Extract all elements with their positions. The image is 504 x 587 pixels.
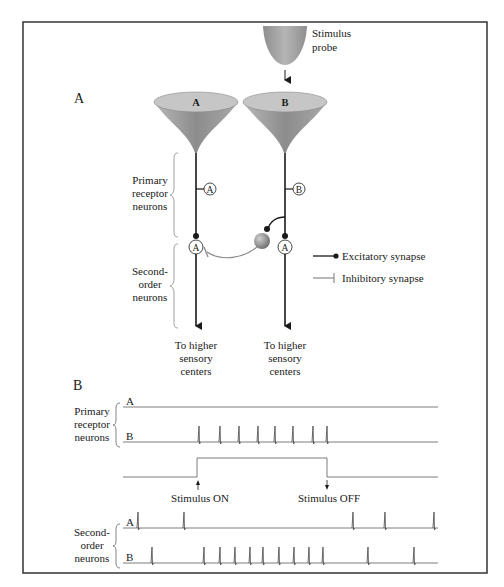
panel-a: A Stimulus probe A B A A xyxy=(74,26,426,377)
action-potential-spike xyxy=(278,547,281,565)
legend: Excitatory synapse Inhibitory synapse xyxy=(313,250,426,284)
primary-trace-b-label: B xyxy=(126,430,133,442)
svg-text:order: order xyxy=(80,539,104,551)
receptor-cone-a: A xyxy=(154,92,238,153)
action-potential-spike xyxy=(326,426,329,444)
action-potential-spike xyxy=(352,512,355,530)
second-order-trace-b-label: B xyxy=(126,551,133,563)
excitatory-synapse-dot-interneuron xyxy=(264,226,270,232)
action-potential-spike xyxy=(234,547,237,565)
neuron-a-pathway: A A xyxy=(189,153,216,326)
svg-text:Second-: Second- xyxy=(132,265,168,277)
neuron-b-pathway: B A xyxy=(264,153,305,326)
action-potential-spike xyxy=(274,426,277,444)
action-potential-spike xyxy=(312,426,315,444)
action-potential-spike xyxy=(292,426,295,444)
excitatory-legend-label: Excitatory synapse xyxy=(342,250,426,262)
primary-brace xyxy=(170,153,178,237)
svg-text:Second-: Second- xyxy=(74,526,110,538)
action-potential-spike xyxy=(203,547,206,565)
svg-text:sensory: sensory xyxy=(179,352,213,364)
interneuron-cell-body xyxy=(254,233,270,249)
primary-trace-group-label: Primary receptor neurons xyxy=(74,405,110,443)
svg-text:receptor: receptor xyxy=(74,418,110,430)
svg-text:receptor: receptor xyxy=(132,187,168,199)
action-potential-spike xyxy=(384,512,387,530)
cone-a-label: A xyxy=(192,97,200,108)
svg-text:A: A xyxy=(193,243,200,253)
excitatory-synapse-dot-a xyxy=(193,233,199,239)
second-order-trace-group-label: Second- order neurons xyxy=(74,526,110,564)
second-order-group-label: Second- order neurons xyxy=(132,265,168,303)
action-potential-spike xyxy=(238,426,241,444)
inhibitory-pathway xyxy=(207,247,257,258)
stimulus-trace xyxy=(123,458,438,477)
primary-trace-b-spikes xyxy=(198,426,329,444)
second-order-brace xyxy=(170,244,178,328)
panel-b: B Primary receptor neurons A B Stimulus … xyxy=(73,378,438,568)
svg-text:neurons: neurons xyxy=(75,431,110,443)
action-potential-spike xyxy=(262,547,265,565)
primary-trace-a-label: A xyxy=(126,395,134,407)
primary-trace-brace xyxy=(113,403,120,447)
panel-b-label: B xyxy=(73,378,82,393)
second-order-trace-b-spikes xyxy=(151,547,416,565)
svg-text:B: B xyxy=(296,185,302,195)
primary-group-label: Primary receptor neurons xyxy=(132,174,168,212)
svg-text:A: A xyxy=(282,243,289,253)
action-potential-spike xyxy=(151,547,154,565)
stimulus-probe-label-line1: Stimulus xyxy=(312,27,351,39)
svg-text:Primary: Primary xyxy=(132,174,168,186)
svg-text:A: A xyxy=(207,185,214,195)
output-label-b: To higher sensory centers xyxy=(264,339,307,377)
probe-shape xyxy=(263,26,307,65)
output-label-a: To higher sensory centers xyxy=(175,339,218,377)
stimulus-probe-label-line2: probe xyxy=(312,41,337,53)
second-order-trace-a-label: A xyxy=(126,516,134,528)
svg-text:sensory: sensory xyxy=(268,352,302,364)
receptor-cone-b: B xyxy=(243,92,327,153)
panel-a-label: A xyxy=(74,91,85,106)
action-potential-spike xyxy=(433,512,436,530)
svg-text:order: order xyxy=(138,278,162,290)
action-potential-spike xyxy=(137,512,140,530)
action-potential-spike xyxy=(198,426,201,444)
svg-text:To higher: To higher xyxy=(175,339,218,351)
excitatory-legend-dot xyxy=(333,253,338,258)
svg-text:Primary: Primary xyxy=(74,405,110,417)
action-potential-spike xyxy=(367,547,370,565)
lateral-inhibition-figure: A Stimulus probe A B A A xyxy=(0,0,504,587)
action-potential-spike xyxy=(413,547,416,565)
svg-text:neurons: neurons xyxy=(133,291,168,303)
stimulus-on-label: Stimulus ON xyxy=(171,492,229,504)
svg-text:centers: centers xyxy=(180,365,211,377)
action-potential-spike xyxy=(219,547,222,565)
action-potential-spike xyxy=(219,426,222,444)
svg-text:neurons: neurons xyxy=(75,552,110,564)
inhibitory-interneuron xyxy=(204,233,270,258)
svg-text:neurons: neurons xyxy=(133,200,168,212)
action-potential-spike xyxy=(308,547,311,565)
svg-text:centers: centers xyxy=(269,365,300,377)
excitatory-synapse-dot-b xyxy=(282,233,288,239)
action-potential-spike xyxy=(183,512,186,530)
stimulus-probe: Stimulus probe xyxy=(263,26,351,80)
second-order-trace-a-spikes xyxy=(137,512,436,530)
action-potential-spike xyxy=(322,547,325,565)
cone-b-label: B xyxy=(281,97,288,108)
svg-text:To higher: To higher xyxy=(264,339,307,351)
action-potential-spike xyxy=(249,547,252,565)
stimulus-off-label: Stimulus OFF xyxy=(298,492,360,504)
inhibitory-legend-label: Inhibitory synapse xyxy=(342,272,424,284)
collateral-branch xyxy=(268,217,285,229)
second-order-trace-brace xyxy=(113,524,120,568)
action-potential-spike xyxy=(257,426,260,444)
action-potential-spike xyxy=(293,547,296,565)
